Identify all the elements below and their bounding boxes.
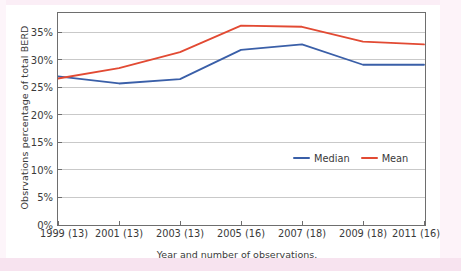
chart-figure: Obsrvations percentage of total BERD 0%5…	[0, 0, 461, 271]
y-tick-label: 15%	[1, 137, 53, 148]
legend-swatch-mean	[361, 157, 378, 159]
legend-entry-median[interactable]: Median	[293, 153, 350, 164]
series-lines	[58, 26, 424, 84]
y-tick-label: 10%	[1, 164, 53, 175]
legend-swatch-median	[293, 157, 310, 159]
legend-label: Median	[314, 153, 350, 164]
legend-label: Mean	[382, 153, 409, 164]
y-tick-label: 5%	[1, 192, 53, 203]
gridlines	[58, 32, 425, 225]
chart-legend: MedianMean	[289, 148, 412, 168]
page-band-top	[0, 0, 461, 5]
series-line-median	[58, 44, 424, 83]
x-tick-label: 2003 (13)	[156, 228, 204, 239]
y-tick-label: 20%	[1, 109, 53, 120]
page-band-right	[440, 0, 461, 258]
x-tick-label: 2009 (18)	[339, 228, 387, 239]
x-tick-label: 2005 (16)	[217, 228, 265, 239]
y-tick-label: 35%	[1, 27, 53, 38]
x-tick-label: 2011 (16)	[392, 228, 440, 239]
x-tick-label: 1999 (13)	[40, 228, 88, 239]
x-axis-title: Year and number of observations.	[46, 249, 428, 260]
y-tick-label: 25%	[1, 82, 53, 93]
legend-entry-mean[interactable]: Mean	[361, 153, 409, 164]
plot-area	[57, 12, 426, 226]
x-tick-label: 2007 (18)	[278, 228, 326, 239]
series-line-mean	[58, 26, 424, 79]
plot-svg	[58, 13, 425, 225]
x-axis-tick-labels: 1999 (13)2001 (13)2003 (13)2005 (16)2007…	[0, 228, 461, 244]
x-tick-label: 2001 (13)	[95, 228, 143, 239]
x-tick-marks	[58, 221, 424, 225]
y-tick-label: 30%	[1, 54, 53, 65]
